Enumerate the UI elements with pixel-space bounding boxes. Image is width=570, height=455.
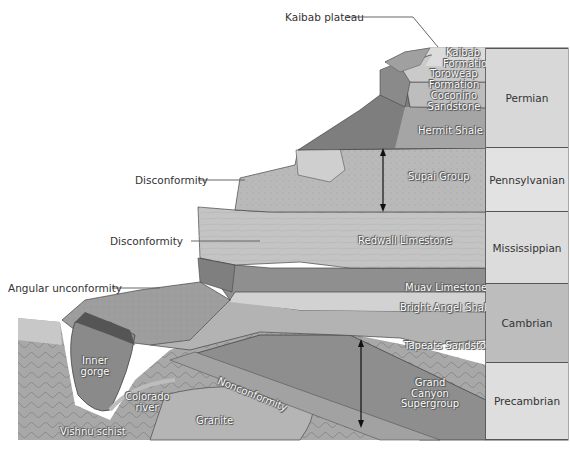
period-pennsylvanian-label: Pennsylvanian [489, 174, 565, 186]
disconformity-lower-label: Disconformity [110, 236, 183, 247]
colorado-river-label: Colorado river [125, 392, 169, 413]
bright-angel-shale-label: Bright Angel Shale [400, 303, 493, 314]
kaibab-plateau-label: Kaibab plateau [285, 12, 364, 23]
period-permian-label: Permian [506, 92, 549, 104]
hermit-shale-label: Hermit Shale [418, 126, 483, 137]
period-cambrian: Cambrian [486, 284, 568, 363]
inner-gorge-label: Inner gorge [78, 356, 112, 377]
period-mississippian: Mississippian [486, 212, 568, 284]
redwall-limestone-label: Redwall Limestone [358, 236, 452, 247]
disconformity-upper-label: Disconformity [135, 175, 208, 186]
supai-group-label: Supai Group [408, 172, 470, 183]
angular-unconformity-label: Angular unconformity [8, 283, 122, 294]
coconino-sandstone-label: Coconino Sandstone [426, 91, 482, 112]
period-mississippian-label: Mississippian [492, 242, 561, 254]
period-precambrian-label: Precambrian [494, 395, 560, 407]
kaibab-formation-label: Kaibab Formation [443, 48, 483, 69]
period-pennsylvanian: Pennsylvanian [486, 148, 568, 212]
toroweap-formation-label: Toroweap Formation [427, 69, 481, 90]
tapeats-sandstone-label: Tapeats Sandstone [404, 341, 498, 352]
grand-canyon-cross-section: Kaibab plateau Disconformity Disconformi… [0, 0, 570, 455]
period-permian: Permian [486, 48, 568, 148]
vishnu-schist-label: Vishnu schist [60, 427, 126, 438]
period-precambrian: Precambrian [486, 363, 568, 440]
grand-canyon-supergroup-label: Grand Canyon Supergroup [398, 378, 462, 410]
muav-limestone-label: Muav Limestone [405, 283, 487, 294]
granite-label: Granite [196, 416, 233, 427]
period-cambrian-label: Cambrian [502, 317, 553, 329]
